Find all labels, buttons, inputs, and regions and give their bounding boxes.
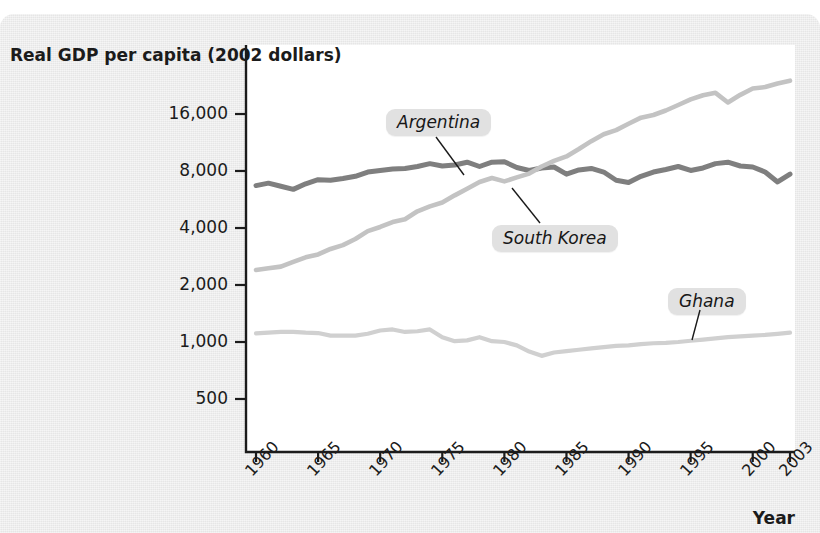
- chart-figure: Real GDP per capita (2002 dollars) Year …: [0, 0, 820, 533]
- leader-line-south-korea: [512, 188, 540, 223]
- series-group: [256, 81, 790, 356]
- chart-canvas: [0, 0, 820, 533]
- leader-line-ghana: [692, 310, 700, 340]
- leader-line-argentina: [436, 137, 464, 175]
- series-line-ghana: [256, 329, 790, 355]
- series-line-south-korea: [256, 81, 790, 270]
